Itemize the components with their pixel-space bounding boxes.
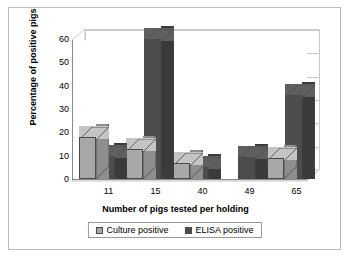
bar (79, 137, 96, 179)
bar-front-face (79, 137, 96, 179)
chart-frame: 0102030405060 Percentage of positive pig… (8, 7, 341, 250)
plot-canvas (72, 40, 307, 180)
y-axis-tick-label: 10 (43, 152, 69, 161)
x-axis-tick-label: 49 (244, 186, 254, 196)
legend-swatch-icon (95, 227, 102, 234)
legend-item: Culture positive (95, 225, 168, 235)
y-axis-tick-label: 40 (43, 82, 69, 91)
x-axis-ticks: 1115404965 (85, 186, 320, 198)
bar-front-face (173, 163, 190, 179)
legend-label: ELISA positive (195, 225, 253, 235)
x-axis-tick-label: 15 (150, 186, 160, 196)
y-axis-title: Percentage of positive pigs (28, 0, 38, 137)
bar (173, 163, 190, 179)
bar (238, 157, 255, 179)
legend-swatch-icon (184, 227, 191, 234)
y-axis-tick-label: 30 (43, 105, 69, 114)
bar-front-face (267, 158, 284, 179)
legend-item: ELISA positive (184, 225, 253, 235)
bar-front-face (238, 157, 255, 179)
bar (126, 149, 143, 179)
y-axis-tick-label: 60 (43, 35, 69, 44)
x-axis-tick-label: 11 (104, 186, 113, 196)
x-axis-tick-label: 65 (291, 186, 301, 196)
bar-side-face (161, 26, 174, 179)
y-axis-tick-label: 20 (43, 128, 69, 137)
y-axis-tick-label: 0 (43, 175, 69, 184)
y-axis-tick-label: 50 (43, 58, 69, 67)
legend-label: Culture positive (106, 225, 168, 235)
plot-area: 0102030405060 Percentage of positive pig… (9, 8, 340, 249)
x-axis-title: Number of pigs tested per holding (9, 204, 342, 214)
bar-front-face (126, 149, 143, 179)
gridline (86, 30, 319, 31)
x-axis-tick-label: 40 (197, 186, 207, 196)
bar (267, 158, 284, 179)
chart-legend: Culture positiveELISA positive (87, 222, 261, 238)
